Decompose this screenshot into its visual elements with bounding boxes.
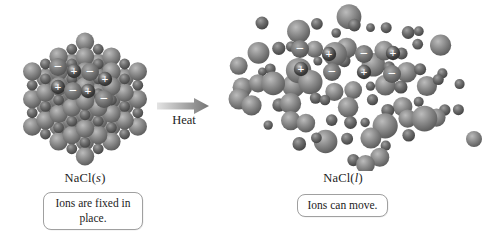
minus-ion: −	[95, 90, 113, 108]
liquid-formula-label: NaCl(l)	[263, 171, 423, 186]
sphere	[412, 106, 438, 132]
sphere	[93, 116, 104, 127]
ion-sign: +	[71, 64, 78, 78]
sphere	[27, 80, 38, 91]
heat-label: Heat	[157, 113, 211, 128]
liquid-caption-text: Ions can move.	[308, 199, 378, 211]
ion-sign: −	[86, 64, 94, 79]
phase-change-diagram: −+−++−+− Heat −+−++−+− NaCl(s) NaCl(l) I…	[0, 0, 488, 242]
ion-sign: −	[54, 59, 62, 74]
nacl-liquid-illustration: −+−++−+−	[225, 3, 485, 171]
sphere	[433, 74, 444, 85]
sphere	[53, 95, 64, 106]
plus-ion: +	[357, 65, 371, 79]
sphere	[394, 80, 407, 93]
sphere	[40, 101, 51, 112]
sphere	[66, 44, 77, 55]
sphere	[348, 19, 361, 32]
sphere	[272, 42, 285, 55]
plus-ion: +	[322, 47, 336, 61]
sphere	[331, 28, 341, 38]
sphere	[366, 23, 375, 32]
sphere	[414, 63, 426, 75]
sphere	[264, 120, 273, 129]
solid-formula-label: NaCl(s)	[5, 171, 165, 186]
sphere	[93, 143, 104, 154]
sphere	[326, 114, 338, 126]
sphere	[341, 133, 353, 145]
ion-sign: −	[100, 91, 108, 106]
minus-ion: −	[291, 40, 309, 58]
solid-formula-prefix: NaCl(	[64, 171, 96, 185]
sphere	[93, 44, 104, 55]
sphere	[338, 97, 359, 118]
plus-ion: +	[98, 72, 112, 86]
liquid-formula-suffix: )	[358, 171, 362, 185]
sphere	[230, 57, 248, 75]
plus-ion: +	[51, 80, 65, 94]
sphere	[106, 122, 117, 133]
sphere	[261, 72, 285, 96]
ion-sign: +	[85, 84, 92, 98]
sphere	[119, 101, 130, 112]
solid-caption-text: Ions are fixed in place.	[55, 197, 130, 224]
sphere	[287, 20, 310, 43]
sphere	[311, 18, 323, 30]
sphere	[402, 129, 415, 142]
sphere	[53, 122, 64, 133]
sphere	[256, 17, 269, 30]
solid-formula-suffix: )	[101, 171, 105, 185]
minus-ion: −	[323, 63, 341, 81]
sphere	[367, 94, 378, 105]
ion-sign: +	[361, 65, 368, 79]
sphere	[466, 131, 482, 147]
sphere	[119, 129, 130, 140]
sphere	[76, 119, 94, 137]
solid-caption-box: Ions are fixed in place.	[43, 192, 143, 230]
nacl-solid-illustration: −+−++−+−	[8, 15, 168, 175]
minus-ion: −	[49, 58, 67, 76]
sphere	[412, 39, 423, 50]
ion-sign: +	[102, 72, 109, 86]
sphere	[66, 143, 77, 154]
sphere	[66, 116, 77, 127]
sphere	[313, 57, 322, 66]
sphere	[414, 97, 424, 107]
plus-ion: +	[67, 64, 81, 78]
sphere	[132, 107, 143, 118]
minus-ion: −	[355, 45, 373, 63]
sphere	[344, 116, 357, 129]
sphere	[344, 81, 362, 99]
ion-sign: −	[296, 41, 304, 56]
liquid-caption-box: Ions can move.	[297, 194, 388, 217]
ion-sign: −	[360, 46, 368, 61]
ion-sign: +	[298, 62, 305, 76]
sphere	[310, 92, 321, 103]
sphere	[366, 82, 375, 91]
minus-ion: −	[81, 63, 99, 81]
sphere	[297, 114, 316, 133]
plus-ion: +	[294, 62, 308, 76]
ion-sign: −	[69, 83, 77, 98]
sphere	[40, 129, 51, 140]
sphere	[132, 80, 143, 91]
sphere	[311, 132, 322, 143]
sphere	[248, 42, 270, 64]
ion-sign: −	[328, 64, 336, 79]
sphere	[360, 118, 369, 127]
sphere	[119, 73, 130, 84]
ion-sign: −	[388, 66, 396, 81]
plus-ion: +	[81, 84, 95, 98]
liquid-formula-prefix: NaCl(	[323, 171, 355, 185]
sphere	[430, 35, 451, 56]
sphere	[320, 95, 331, 106]
sphere	[40, 73, 51, 84]
arrow-shape	[157, 98, 209, 114]
sphere	[119, 59, 130, 70]
sphere	[453, 104, 464, 115]
sphere	[414, 26, 424, 36]
sphere	[80, 109, 91, 120]
sphere	[129, 62, 147, 80]
sphere	[360, 128, 381, 149]
sphere	[23, 62, 41, 80]
